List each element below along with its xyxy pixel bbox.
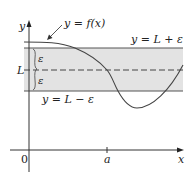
upper-bound-label: y = L + ε [130,33,183,46]
y-axis-label: y [18,20,26,33]
epsilon-bottom-label: ε [38,75,43,86]
label-pointer [50,25,62,37]
lower-bound-label: y = L − ε [41,93,94,106]
function-label: y = f(x) [63,17,105,30]
diagram-svg: y = f(x) y = L + ε y = L − ε L ε ε y x 0… [0,0,196,186]
limit-diagram: y = f(x) y = L + ε y = L − ε L ε ε y x 0… [0,0,196,186]
x-axis-arrow-icon [177,148,184,153]
a-label: a [104,153,111,166]
epsilon-top-label: ε [38,53,43,64]
y-axis-arrow-icon [27,20,32,27]
limit-L-label: L [16,64,24,77]
x-axis-label: x [178,153,185,166]
origin-label: 0 [21,153,28,166]
